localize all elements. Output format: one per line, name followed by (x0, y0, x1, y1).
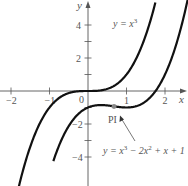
chart: −2−112 42−2−4 x y 0 y = x3 PI y = x3 − 2… (0, 0, 188, 186)
y-axis-arrow-icon (86, 1, 91, 8)
y-tick-label: −4 (72, 152, 83, 163)
y-axis (86, 1, 91, 186)
curve-y-x-cubed (16, 3, 155, 186)
annotation-arrow (121, 118, 135, 141)
curve2-label: y = x3 − 2x2 + x + 1 (102, 144, 185, 156)
x-axis-label: x (178, 93, 184, 105)
x-tick-label: 1 (124, 95, 129, 106)
y-tick-label: 4 (76, 20, 81, 31)
annotation-arrowhead-icon (120, 116, 125, 123)
x-tick-label: −2 (6, 95, 17, 106)
inflection-point-label: PI (108, 114, 117, 125)
inflection-point-marker (112, 104, 117, 109)
y-axis-label: y (76, 0, 82, 11)
x-tick-label: 2 (163, 95, 168, 106)
y-tick-label: 2 (76, 53, 81, 64)
curve1-label: y = x3 (112, 17, 138, 29)
origin-label: 0 (79, 94, 84, 105)
